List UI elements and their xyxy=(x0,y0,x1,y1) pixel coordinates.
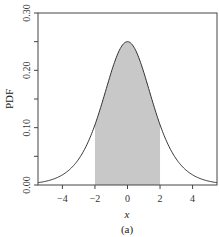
figure-caption: (a) xyxy=(121,223,134,236)
y-axis-label: PDF xyxy=(3,89,15,109)
x-axis: −4−2024 xyxy=(57,185,195,204)
x-tick-label: 4 xyxy=(190,193,195,204)
shaded-area xyxy=(95,42,160,185)
y-tick-label: 0.30 xyxy=(21,4,32,22)
x-tick-label: −2 xyxy=(90,193,101,204)
y-tick-label: 0.20 xyxy=(21,62,32,80)
y-tick-label: 0.10 xyxy=(21,119,32,136)
x-tick-label: −4 xyxy=(57,193,68,204)
pdf-chart: 0.000.100.200.30 −4−2024 PDF x (a) xyxy=(0,0,219,237)
x-tick-label: 2 xyxy=(158,193,163,204)
y-tick-label: 0.00 xyxy=(21,176,32,194)
x-axis-label: x xyxy=(124,208,130,220)
y-axis: 0.000.100.200.30 xyxy=(21,4,38,194)
x-tick-label: 0 xyxy=(125,193,130,204)
